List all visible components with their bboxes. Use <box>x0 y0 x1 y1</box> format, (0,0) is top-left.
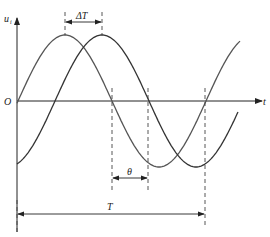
delta-t-label: ΔT <box>75 10 89 21</box>
phase-diagram: u i t O ΔT θ T <box>0 0 270 237</box>
theta-label: θ <box>127 166 132 177</box>
period-label: T <box>107 201 114 212</box>
x-axis-label: t <box>263 96 266 107</box>
y-axis-sub: i <box>10 19 12 25</box>
origin-label: O <box>4 96 11 107</box>
y-axis-label: u <box>4 13 9 24</box>
